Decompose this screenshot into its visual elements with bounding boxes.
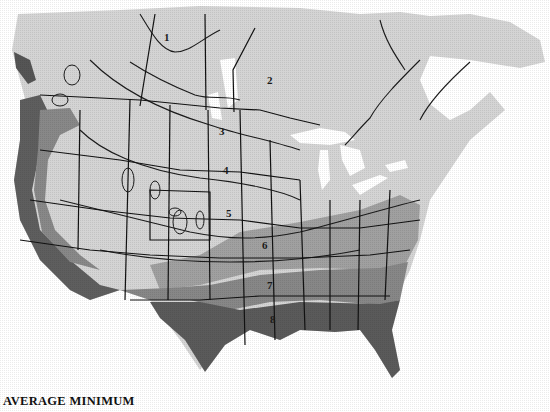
map-caption: AVERAGE MINIMUM	[3, 394, 135, 409]
zone-label-7: 7	[267, 279, 273, 291]
zone-label-4: 4	[223, 164, 229, 176]
hardiness-zone-map: 1 2 3 4 5 6 7 8 AVERAGE MINIMUM	[0, 0, 550, 412]
zone-label-1: 1	[164, 31, 170, 43]
zone-label-5: 5	[226, 207, 232, 219]
zone-label-6: 6	[262, 239, 268, 251]
zone-label-2: 2	[267, 74, 273, 86]
map-graphic	[0, 0, 550, 412]
zone-label-8: 8	[270, 313, 276, 325]
zone-label-3: 3	[219, 125, 225, 137]
